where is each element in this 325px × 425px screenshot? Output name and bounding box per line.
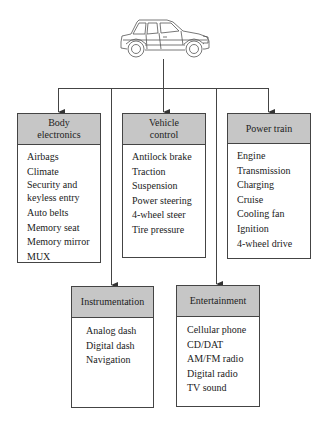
box-vehicle-control: Vehicle control Antilock brake Traction …: [122, 113, 206, 258]
box-header-body-electronics: Body electronics: [18, 114, 100, 145]
list-item: Auto belts: [27, 206, 100, 221]
list-item: Transmission: [237, 164, 310, 179]
box-header-vehicle-control: Vehicle control: [123, 114, 205, 145]
box-title-line: control: [149, 129, 179, 141]
list-item: Digital dash: [86, 339, 153, 354]
box-header-instrumentation: Instrumentation: [72, 287, 153, 318]
box-title-line: Power train: [246, 123, 292, 135]
box-title-line: Entertainment: [190, 295, 247, 307]
item-list: Cellular phone CD/DAT AM/FM radio Digita…: [177, 317, 259, 396]
box-body-electronics: Body electronics Airbags Climate Securit…: [17, 113, 101, 263]
item-list: Airbags Climate Security and keyless ent…: [18, 145, 100, 265]
list-item: Engine: [237, 149, 310, 164]
item-list: Engine Transmission Charging Cruise Cool…: [228, 144, 310, 251]
item-list: Analog dash Digital dash Navigation: [72, 318, 153, 368]
list-item: CD/DAT: [187, 338, 259, 353]
list-item: Ignition: [237, 222, 310, 237]
list-item: AM/FM radio: [187, 352, 259, 367]
list-item: Tire pressure: [132, 223, 205, 238]
list-item: Cruise: [237, 193, 310, 208]
list-item: Climate: [27, 165, 100, 180]
box-title-line: Vehicle: [149, 117, 179, 129]
list-item: Airbags: [27, 150, 100, 165]
list-item: Digital radio: [187, 367, 259, 382]
list-item: Navigation: [86, 353, 153, 368]
list-item: Traction: [132, 165, 205, 180]
list-item: Power steering: [132, 194, 205, 209]
car-icon: [119, 18, 213, 60]
list-item: 4-wheel steer: [132, 208, 205, 223]
list-item: Security and keyless entry: [27, 179, 93, 204]
list-item: Cellular phone: [187, 323, 259, 338]
list-item: Suspension: [132, 179, 205, 194]
box-entertainment: Entertainment Cellular phone CD/DAT AM/F…: [176, 285, 260, 407]
box-title-line: Instrumentation: [81, 296, 144, 308]
box-power-train: Power train Engine Transmission Charging…: [227, 113, 311, 259]
list-item: 4-wheel drive: [237, 237, 310, 252]
list-item: Charging: [237, 178, 310, 193]
list-item: Cooling fan: [237, 207, 310, 222]
box-header-power-train: Power train: [228, 114, 310, 144]
box-instrumentation: Instrumentation Analog dash Digital dash…: [71, 286, 154, 408]
list-item: Antilock brake: [132, 150, 205, 165]
list-item: Memory mirror: [27, 235, 100, 250]
list-item: Memory seat: [27, 221, 100, 236]
box-header-entertainment: Entertainment: [177, 286, 259, 317]
box-title-line: electronics: [37, 129, 80, 141]
box-title-line: Body: [37, 117, 80, 129]
list-item: MUX: [27, 250, 100, 265]
list-item: Analog dash: [86, 324, 153, 339]
item-list: Antilock brake Traction Suspension Power…: [123, 145, 205, 238]
list-item: TV sound: [187, 381, 259, 396]
